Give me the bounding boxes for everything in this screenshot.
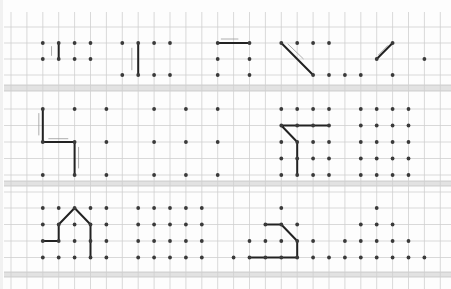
grid-dot	[391, 107, 395, 111]
grid-dot	[248, 41, 252, 45]
grid-dot	[375, 173, 379, 177]
grid-dot	[184, 173, 188, 177]
grid-dot	[423, 57, 427, 61]
grid-dot	[57, 41, 61, 45]
grid-dot	[136, 73, 140, 77]
grid-dot	[375, 239, 379, 243]
grid-dot	[248, 57, 252, 61]
grid-dot	[407, 124, 411, 128]
grid-dot	[152, 73, 156, 77]
grid-dot	[391, 173, 395, 177]
drawn-line	[281, 126, 329, 176]
grid-dot	[327, 157, 331, 161]
grid-dot	[295, 173, 299, 177]
grid-dot	[327, 124, 331, 128]
grid-dot	[327, 140, 331, 144]
grid-dot	[152, 239, 156, 243]
grid-dot	[57, 239, 61, 243]
grid-dot	[311, 157, 315, 161]
grid-dot	[152, 223, 156, 227]
grid-dot	[57, 206, 61, 210]
section-band	[4, 272, 451, 277]
page-left-edge	[0, 0, 3, 289]
grid-dot	[407, 107, 411, 111]
grid-dot	[423, 256, 427, 260]
grid-dot	[391, 223, 395, 227]
grid-dot	[295, 157, 299, 161]
grid-dot	[41, 256, 45, 260]
grid-dot	[359, 107, 363, 111]
grid-dot	[311, 140, 315, 144]
grid-dot	[105, 206, 109, 210]
grid-dot	[248, 239, 252, 243]
drawn-line	[43, 208, 91, 258]
grid-dot	[279, 124, 283, 128]
grid-dot	[136, 206, 140, 210]
grid-dot	[41, 223, 45, 227]
grid-dot	[279, 223, 283, 227]
grid-dot	[216, 107, 220, 111]
grid-dot	[73, 57, 77, 61]
grid-dot	[168, 223, 172, 227]
grid-dot	[327, 173, 331, 177]
grid-dot	[73, 173, 77, 177]
grid-dot	[89, 256, 93, 260]
grid-dot	[41, 57, 45, 61]
grid-dot	[327, 256, 331, 260]
grid-dot	[375, 107, 379, 111]
grid-dot	[264, 239, 268, 243]
grid-dot	[73, 140, 77, 144]
grid-dot	[73, 206, 77, 210]
grid-dot	[216, 173, 220, 177]
grid-dot	[407, 140, 411, 144]
grid-dot	[391, 157, 395, 161]
grid-dot	[407, 239, 411, 243]
grid-dot	[152, 173, 156, 177]
grid-dot	[136, 256, 140, 260]
grid-dot	[295, 41, 299, 45]
grid-dot	[391, 239, 395, 243]
section-band	[4, 85, 451, 91]
grid-dot	[407, 173, 411, 177]
grid-dot	[327, 73, 331, 77]
grid-dot	[375, 124, 379, 128]
grid-dot	[105, 223, 109, 227]
figure-trapezoid-blank	[343, 206, 426, 259]
grid-dot	[73, 107, 77, 111]
grid-dot	[57, 57, 61, 61]
grid-dot	[359, 256, 363, 260]
grid-dot	[152, 107, 156, 111]
grid-dot	[279, 107, 283, 111]
grid-dot	[295, 140, 299, 144]
grid-dot	[264, 256, 268, 260]
grid-dot	[41, 41, 45, 45]
grid-dot	[375, 206, 379, 210]
grid-dot	[41, 107, 45, 111]
grid-dot	[359, 140, 363, 144]
worksheet	[0, 0, 451, 289]
grid-dot	[248, 73, 252, 77]
grid-dot	[311, 256, 315, 260]
grid-dot	[359, 124, 363, 128]
grid-dot	[295, 124, 299, 128]
grid-dot	[248, 256, 252, 260]
grid-dot	[327, 107, 331, 111]
grid-dot	[41, 173, 45, 177]
grid-dot	[89, 239, 93, 243]
grid-dot	[311, 41, 315, 45]
grid-dot	[168, 41, 172, 45]
grid-dot	[232, 256, 236, 260]
grid-dot	[73, 256, 77, 260]
grid-dot	[152, 256, 156, 260]
grid-dot	[359, 239, 363, 243]
grid-dot	[343, 73, 347, 77]
grid-dot	[279, 206, 283, 210]
grid-dot	[200, 223, 204, 227]
grid-dot	[375, 223, 379, 227]
grid-dot	[200, 206, 204, 210]
drawn-line	[377, 43, 393, 59]
grid-dot	[264, 223, 268, 227]
grid-dot	[279, 173, 283, 177]
grid-dot	[89, 223, 93, 227]
grid-dot	[216, 140, 220, 144]
